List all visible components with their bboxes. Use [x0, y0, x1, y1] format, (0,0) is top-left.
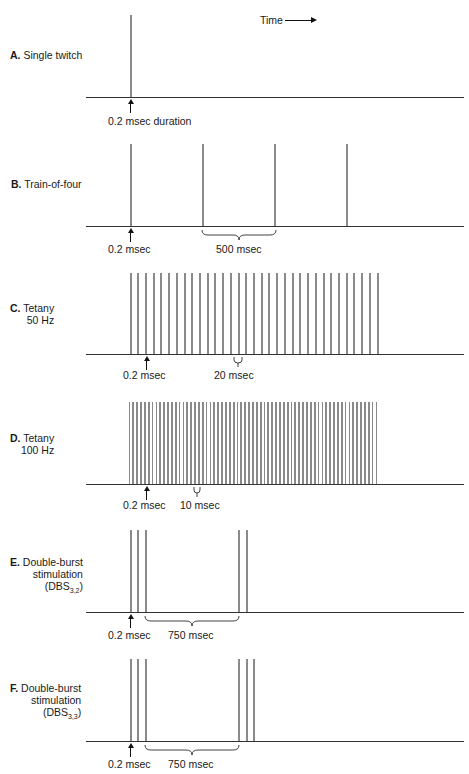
- pulse: [221, 402, 223, 484]
- pulse: [369, 273, 371, 354]
- pulse: [229, 402, 231, 484]
- pulse: [153, 273, 155, 354]
- pulse: [156, 402, 158, 484]
- pulse: [194, 402, 196, 484]
- pulse: [225, 402, 227, 484]
- pulse: [171, 402, 173, 484]
- pulse: [329, 402, 331, 484]
- pulse: [325, 402, 327, 484]
- pulse: [130, 144, 132, 226]
- pulse: [238, 273, 240, 354]
- pulse: [184, 273, 186, 354]
- pulse: [346, 273, 348, 354]
- pulse: [302, 402, 304, 484]
- pulse: [130, 659, 132, 741]
- pulse: [245, 273, 247, 354]
- pulse: [246, 530, 248, 612]
- pulse: [330, 273, 332, 354]
- pulse: [217, 402, 219, 484]
- pulse: [163, 402, 165, 484]
- pulse: [198, 402, 200, 484]
- brace-icon: [234, 357, 242, 367]
- pulse: [145, 273, 147, 354]
- panel-dbs-3-3: F. Double-burststimulation(DBS3,3) 0.2 m…: [0, 645, 469, 774]
- panel-train-of-four: B. Train-of-four 0.2 msec 500 msec: [0, 130, 469, 260]
- pulse: [346, 144, 348, 226]
- panel-label: D. Tetany100 Hz: [10, 432, 54, 456]
- pulse: [338, 273, 340, 354]
- pulse: [306, 402, 308, 484]
- panel-label: E. Double-burststimulation(DBS3,2): [10, 556, 83, 597]
- pulse: [144, 402, 146, 484]
- pulse: [167, 402, 169, 484]
- pulse: [361, 273, 363, 354]
- pulse: [322, 402, 324, 484]
- pulse: [191, 273, 193, 354]
- pulse: [202, 402, 204, 484]
- pulse: [276, 273, 278, 354]
- pulse: [318, 402, 320, 484]
- pulse: [345, 402, 347, 484]
- pulse: [130, 273, 132, 354]
- brace-icon: [145, 745, 239, 755]
- pulse-annotation: 0.2 msec: [123, 369, 166, 381]
- pulse: [253, 273, 255, 354]
- pulse: [248, 402, 250, 484]
- panel-tetany-100hz: D. Tetany100 Hz 0.2 msec 10 msec: [0, 390, 469, 520]
- pulse: [140, 402, 142, 484]
- pulse: [222, 273, 224, 354]
- pulse-annotation: 0.2 msec: [108, 243, 151, 255]
- pulse: [287, 402, 289, 484]
- pulse: [130, 530, 132, 612]
- pulse: [271, 402, 273, 484]
- pulse: [299, 273, 301, 354]
- pulse-annotation: 0.2 msec: [123, 499, 166, 511]
- pulse: [261, 273, 263, 354]
- pulse: [284, 273, 286, 354]
- pulse: [283, 402, 285, 484]
- pulse: [238, 530, 240, 612]
- panel-label: B. Train-of-four: [11, 178, 82, 190]
- baseline: [86, 354, 464, 355]
- pulse: [267, 402, 269, 484]
- pulse: [159, 402, 161, 484]
- pulse: [264, 402, 266, 484]
- pulse: [356, 402, 358, 484]
- pulse: [377, 273, 379, 354]
- pulse: [368, 402, 370, 484]
- pulse: [176, 273, 178, 354]
- pulse: [260, 402, 262, 484]
- pulse: [210, 402, 212, 484]
- pulse: [292, 273, 294, 354]
- panel-label: C. Tetany50 Hz: [10, 302, 54, 326]
- pulse: [246, 659, 248, 741]
- pulse: [349, 402, 351, 484]
- pulse: [132, 402, 134, 484]
- pulse: [291, 402, 293, 484]
- pulse: [137, 273, 139, 354]
- panel-label: A. Single twitch: [10, 49, 82, 61]
- pulse: [179, 402, 181, 484]
- pulse: [190, 402, 192, 484]
- pulse: [323, 273, 325, 354]
- pulse: [364, 402, 366, 484]
- baseline: [86, 97, 464, 98]
- brace-icon: [145, 616, 239, 626]
- pulse: [202, 144, 204, 226]
- pulse: [298, 402, 300, 484]
- pulse: [129, 402, 131, 484]
- baseline: [86, 484, 464, 485]
- brace-icon: [202, 230, 276, 240]
- pulse: [145, 659, 147, 741]
- pulse: [214, 273, 216, 354]
- pulse: [341, 402, 343, 484]
- pulse: [183, 402, 185, 484]
- interval-annotation: 20 msec: [214, 369, 254, 381]
- pulse: [238, 659, 240, 741]
- pulse: [207, 273, 209, 354]
- pulse: [137, 530, 139, 612]
- pulse: [274, 144, 276, 226]
- pulse: [130, 15, 132, 97]
- pulse: [253, 659, 255, 741]
- pulse: [145, 530, 147, 612]
